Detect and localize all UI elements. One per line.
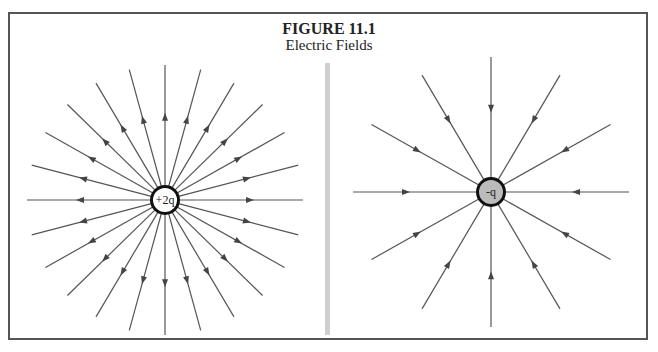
- arrow-icon: [162, 279, 168, 287]
- arrow-icon: [561, 146, 569, 153]
- field-diagrams: [0, 0, 658, 352]
- field-line: [371, 125, 478, 186]
- field-line: [96, 83, 158, 188]
- positive-charge-label: +2q: [156, 193, 175, 208]
- arrow-icon: [162, 113, 168, 121]
- negative-charge: -q: [476, 177, 506, 207]
- arrow-icon: [79, 218, 88, 224]
- arrow-icon: [141, 116, 147, 125]
- arrow-icon: [402, 189, 410, 195]
- field-line: [45, 207, 152, 268]
- arrow-icon: [242, 177, 251, 183]
- arrow-icon: [88, 237, 96, 244]
- arrow-icon: [88, 156, 96, 163]
- field-line: [503, 125, 610, 186]
- arrow-icon: [444, 261, 451, 269]
- field-line: [503, 199, 610, 260]
- field-line: [45, 133, 152, 194]
- arrow-icon: [488, 271, 494, 279]
- arrow-icon: [183, 276, 189, 285]
- arrow-icon: [532, 115, 539, 123]
- arrow-icon: [121, 267, 128, 275]
- field-line: [498, 204, 560, 309]
- arrow-icon: [412, 232, 420, 239]
- arrow-icon: [246, 197, 254, 203]
- field-line: [172, 83, 234, 188]
- arrow-icon: [444, 115, 451, 123]
- arrow-icon: [572, 189, 580, 195]
- arrow-icon: [234, 156, 242, 163]
- arrow-icon: [488, 105, 494, 113]
- field-line: [96, 212, 158, 317]
- field-line: [498, 75, 560, 180]
- arrow-icon: [79, 177, 88, 183]
- arrow-icon: [141, 276, 147, 285]
- arrow-icon: [76, 197, 84, 203]
- arrow-icon: [234, 237, 242, 244]
- field-line: [422, 204, 484, 309]
- arrow-icon: [203, 267, 210, 275]
- arrow-icon: [242, 218, 251, 224]
- field-line: [422, 75, 484, 180]
- arrow-icon: [561, 232, 569, 239]
- arrow-icon: [203, 125, 210, 133]
- arrow-icon: [183, 116, 189, 125]
- field-line: [177, 133, 284, 194]
- arrow-icon: [121, 125, 128, 133]
- arrow-icon: [412, 146, 420, 153]
- field-line: [371, 199, 478, 260]
- positive-charge: +2q: [150, 185, 180, 215]
- field-line: [172, 212, 234, 317]
- field-line: [177, 207, 284, 268]
- arrow-icon: [532, 261, 539, 269]
- negative-charge-label: -q: [486, 185, 496, 200]
